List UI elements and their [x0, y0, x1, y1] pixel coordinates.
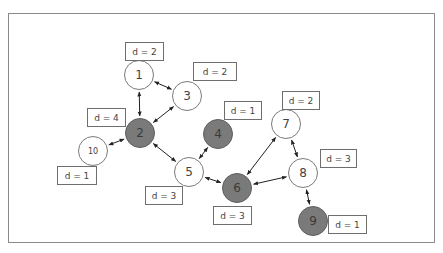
degree-label-node-5: d = 3 — [145, 186, 183, 205]
degree-label-node-9: d = 1 — [328, 215, 367, 234]
degree-label-node-4: d = 1 — [224, 101, 262, 120]
node-2: 2 — [125, 118, 155, 148]
node-7: 7 — [271, 109, 301, 139]
edge-3-2 — [153, 107, 173, 123]
degree-label-node-8: d = 3 — [320, 149, 357, 168]
node-1: 1 — [124, 60, 154, 90]
edge-6-7 — [247, 137, 275, 174]
node-4: 4 — [203, 119, 233, 149]
edge-2-10 — [109, 139, 124, 145]
edge-8-9 — [306, 190, 309, 205]
degree-label-node-3: d = 2 — [193, 62, 237, 81]
degree-label-node-7: d = 2 — [282, 91, 320, 110]
node-8: 8 — [288, 158, 318, 188]
degree-label-node-10: d = 1 — [57, 166, 97, 185]
node-9: 9 — [298, 206, 328, 236]
edge-7-8 — [292, 140, 298, 157]
node-5: 5 — [174, 157, 204, 187]
edge-6-8 — [254, 177, 287, 184]
degree-label-node-2: d = 4 — [87, 108, 126, 127]
node-3: 3 — [172, 81, 202, 111]
edge-1-3 — [155, 82, 172, 89]
node-10: 10 — [78, 136, 108, 166]
degree-label-node-1: d = 2 — [125, 42, 164, 61]
edge-5-6 — [205, 177, 221, 182]
edge-2-5 — [153, 144, 175, 162]
node-6: 6 — [222, 173, 252, 203]
degree-label-node-6: d = 3 — [213, 206, 252, 225]
edge-5-4 — [199, 148, 207, 159]
